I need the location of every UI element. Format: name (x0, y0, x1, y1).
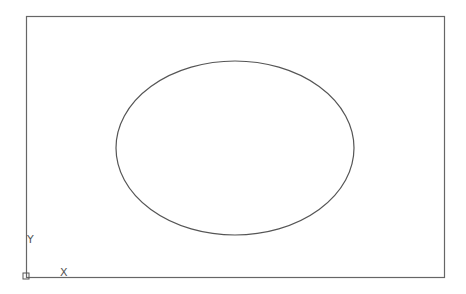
drawing-border (27, 17, 445, 278)
ucs-icon: Y X (23, 233, 68, 279)
ellipse-shape[interactable] (116, 61, 354, 235)
ucs-y-label: Y (26, 233, 34, 246)
ucs-x-label: X (60, 266, 68, 279)
drawing-canvas[interactable]: Y X (0, 0, 466, 294)
